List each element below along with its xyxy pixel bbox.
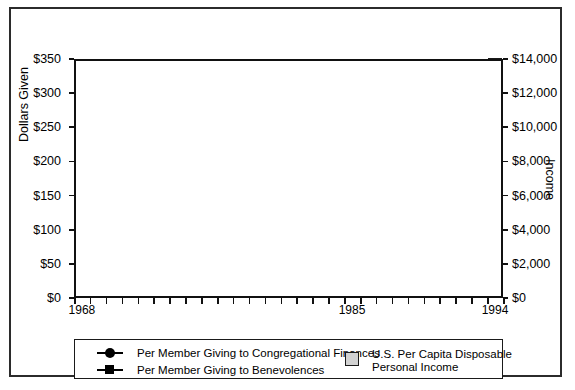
y-axis-left-tick-label: $50 bbox=[40, 257, 61, 271]
y-axis-right-tick-label: $12,000 bbox=[512, 86, 557, 100]
y-axis-left-tick bbox=[69, 92, 74, 94]
x-axis-tick bbox=[392, 298, 394, 304]
y-axis-right-tick-label: $6,000 bbox=[512, 189, 550, 203]
legend-label-benevolences: Per Member Giving to Benevolences bbox=[137, 364, 324, 377]
x-axis-tick-label: 1985 bbox=[339, 303, 366, 317]
x-axis-tick bbox=[408, 298, 410, 304]
y-axis-right-tick bbox=[503, 263, 508, 265]
y-axis-left-tick bbox=[69, 126, 74, 128]
x-axis-tick bbox=[233, 298, 235, 304]
x-axis-tick bbox=[122, 298, 124, 304]
y-axis-left-tick bbox=[69, 263, 74, 265]
y-axis-left-tick-label: $300 bbox=[33, 86, 61, 100]
y-axis-left-tick-label: $100 bbox=[33, 223, 61, 237]
y-axis-right-tick bbox=[503, 92, 508, 94]
x-axis-tick bbox=[281, 298, 283, 304]
y-axis-left-tick bbox=[69, 161, 74, 163]
x-axis-tick-label: 1994 bbox=[482, 303, 509, 317]
y-axis-left-tick-label: $0 bbox=[47, 291, 61, 305]
chart-legend: Per Member Giving to Congregational Fina… bbox=[74, 339, 503, 379]
x-axis-tick bbox=[471, 298, 473, 304]
x-axis-tick bbox=[296, 298, 298, 304]
x-axis-tick bbox=[424, 298, 426, 304]
legend-label-congregational: Per Member Giving to Congregational Fina… bbox=[137, 347, 380, 360]
y-axis-right-tick bbox=[503, 161, 508, 163]
chart-frame: Dollars Given Income Per Member Giving t… bbox=[9, 7, 562, 377]
y-axis-right-tick-label: $10,000 bbox=[512, 120, 557, 134]
x-axis-tick bbox=[185, 298, 187, 304]
x-axis-tick bbox=[360, 298, 362, 304]
x-axis-tick bbox=[249, 298, 251, 304]
x-axis-tick bbox=[376, 298, 378, 304]
x-axis-tick bbox=[265, 298, 267, 304]
x-axis-tick bbox=[217, 298, 219, 304]
x-axis-tick bbox=[455, 298, 457, 304]
x-axis-tick bbox=[90, 298, 92, 304]
legend-label-income-line2: Personal Income bbox=[372, 361, 458, 374]
y-axis-left-tick-label: $250 bbox=[33, 120, 61, 134]
x-axis-tick bbox=[106, 298, 108, 304]
y-axis-left-tick bbox=[69, 229, 74, 231]
x-axis-tick bbox=[439, 298, 441, 304]
y-axis-right-tick-label: $14,000 bbox=[512, 52, 557, 66]
y-axis-left-tick bbox=[69, 195, 74, 197]
y-axis-right-tick-label: $0 bbox=[512, 291, 526, 305]
x-axis-tick bbox=[503, 298, 505, 304]
gray-swatch-icon bbox=[345, 352, 359, 366]
x-axis-tick bbox=[328, 298, 330, 304]
x-axis-tick bbox=[153, 298, 155, 304]
plot-border bbox=[74, 59, 503, 298]
x-axis-tick bbox=[201, 298, 203, 304]
plot-area bbox=[74, 59, 503, 298]
y-axis-right-tick bbox=[503, 195, 508, 197]
y-axis-right-tick bbox=[503, 126, 508, 128]
y-axis-left-label: Dollars Given bbox=[17, 67, 31, 142]
y-axis-right-tick-label: $2,000 bbox=[512, 257, 550, 271]
y-axis-left-tick-label: $350 bbox=[33, 52, 61, 66]
x-axis-tick bbox=[312, 298, 314, 304]
x-axis-tick bbox=[138, 298, 140, 304]
x-axis-tick-label: 1968 bbox=[69, 303, 96, 317]
y-axis-left-tick bbox=[69, 58, 74, 60]
y-axis-right-tick-label: $4,000 bbox=[512, 223, 550, 237]
y-axis-right-tick bbox=[503, 229, 508, 231]
circle-marker-icon bbox=[105, 348, 115, 358]
y-axis-right-tick bbox=[503, 58, 508, 60]
y-axis-left-tick-label: $200 bbox=[33, 154, 61, 168]
y-axis-left-tick-label: $150 bbox=[33, 189, 61, 203]
y-axis-right-tick-label: $8,000 bbox=[512, 154, 550, 168]
x-axis-tick bbox=[169, 298, 171, 304]
square-marker-icon bbox=[105, 365, 114, 374]
legend-label-income-line1: U.S. Per Capita Disposable bbox=[372, 348, 512, 361]
